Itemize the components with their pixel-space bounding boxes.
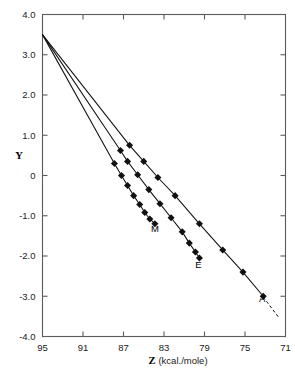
x-tick-label: 87 [118,342,129,353]
chart-figure: 95918783797571 4.03.02.01.00-1.0-2.0-3.0… [0,0,295,371]
y-axis-title: Y [15,150,23,161]
y-tick-label: 2.0 [22,89,35,100]
x-axis-title-unit: (kcal./mole) [158,355,207,366]
y-tick-label: -2.0 [19,250,35,261]
x-tick-label: 75 [240,342,251,353]
x-tick-label: 71 [280,342,291,353]
x-tick-label: 95 [37,342,48,353]
chart-background [0,0,295,371]
x-tick-label: 91 [78,342,89,353]
series-label-M: M [151,223,159,234]
y-tick-label: 1.0 [22,130,35,141]
series-label-A: A [259,293,266,304]
y-tick-label: 4.0 [22,9,35,20]
x-tick-label: 83 [159,342,170,353]
y-tick-label: -3.0 [19,291,35,302]
x-axis-title-symbol: Z [148,355,155,366]
line-chart: 95918783797571 4.03.02.01.00-1.0-2.0-3.0… [0,0,295,371]
y-tick-label: -4.0 [19,331,35,342]
x-tick-label: 79 [199,342,210,353]
y-tick-label: 3.0 [22,49,35,60]
series-label-E: E [195,259,201,270]
y-tick-label: 0 [30,170,35,181]
y-tick-label: -1.0 [19,210,35,221]
